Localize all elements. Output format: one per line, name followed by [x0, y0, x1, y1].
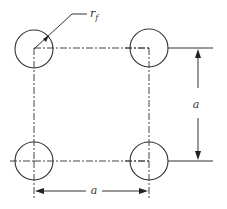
- arrow-down-icon: [195, 151, 201, 160]
- radius-arrowhead-icon: [43, 35, 49, 42]
- vertical-spacing-label: a: [193, 98, 200, 111]
- arrow-right-icon: [139, 188, 148, 194]
- arrow-left-icon: [35, 188, 44, 194]
- fibers: [15, 29, 168, 180]
- center-lines: [10, 48, 149, 200]
- arrow-up-icon: [195, 49, 201, 58]
- radius-label: rf: [90, 7, 100, 22]
- horizontal-spacing-label: a: [91, 184, 98, 197]
- fiber-square-array-diagram: rf a a: [0, 0, 227, 209]
- unit-cell-square: [34, 48, 149, 161]
- vertical-dimension: [168, 48, 213, 161]
